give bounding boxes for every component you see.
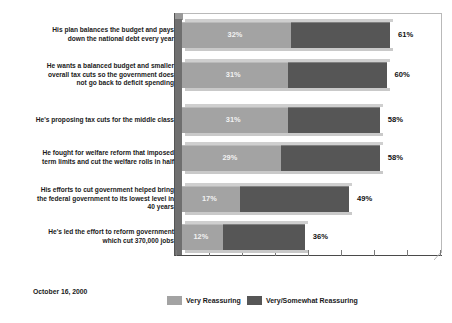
bar-segment-very-somewhat-reassuring bbox=[240, 186, 349, 212]
bar-segment-very-somewhat-reassuring bbox=[223, 224, 305, 250]
bar-category-label: His efforts to cut government helped bri… bbox=[6, 186, 174, 212]
y-axis-line bbox=[174, 13, 175, 256]
plot-depth-wall bbox=[175, 19, 182, 255]
bar-category-label: He fought for welfare reform that impose… bbox=[6, 149, 174, 166]
x-axis-tick bbox=[308, 250, 309, 256]
bar-category-label-line: He's led the effort to reform government bbox=[6, 228, 174, 237]
bar-base-shadow bbox=[185, 48, 393, 51]
bar-category-label-line: He fought for welfare reform that impose… bbox=[6, 149, 174, 158]
legend-label: Very/Somewhat Reassuring bbox=[266, 297, 358, 304]
bar-base-shadow bbox=[185, 212, 352, 215]
bar-base-shadow bbox=[185, 250, 308, 253]
bar-total-value-label: 61% bbox=[398, 22, 413, 48]
bar-segment-very-somewhat-reassuring bbox=[291, 22, 390, 48]
bar-category-label-line: the federal government to its lowest lev… bbox=[6, 195, 174, 204]
bar-category-label: He's proposing tax cuts for the middle c… bbox=[6, 116, 174, 125]
plot-frame-top bbox=[182, 13, 442, 14]
bar-base-shadow bbox=[185, 133, 383, 136]
bar-base-shadow bbox=[185, 171, 383, 174]
x-axis-tick bbox=[341, 250, 342, 256]
bar-total-value-label: 49% bbox=[357, 186, 372, 212]
stacked-bar bbox=[182, 145, 380, 171]
bar-category-label-line: His efforts to cut government helped bri… bbox=[6, 186, 174, 195]
x-axis-tick bbox=[407, 250, 408, 256]
plot-frame-right bbox=[441, 13, 442, 253]
bar-category-label-line: down the national debt every year bbox=[6, 35, 174, 44]
bar-segment-very-somewhat-reassuring bbox=[281, 145, 380, 171]
footer-date: October 16, 2000 bbox=[33, 288, 87, 295]
bar-category-label-line: not go back to deficit spending bbox=[6, 79, 174, 88]
bar-inner-value-label: 31% bbox=[226, 107, 241, 133]
bar-inner-value-label: 29% bbox=[222, 145, 237, 171]
bar-total-value-label: 60% bbox=[395, 62, 410, 88]
legend-swatch-icon bbox=[167, 296, 182, 305]
chart-title bbox=[0, 0, 452, 4]
bar-segment-very-somewhat-reassuring bbox=[288, 107, 380, 133]
chart-container: His plan balances the budget and paysdow… bbox=[0, 0, 452, 323]
bar-category-label-line: His plan balances the budget and pays bbox=[6, 26, 174, 35]
stacked-bar bbox=[182, 107, 380, 133]
bar-category-label-line: which cut 370,000 jobs bbox=[6, 237, 174, 246]
chart-legend: Very Reassuring Very/Somewhat Reassuring bbox=[167, 296, 358, 305]
bar-base-shadow bbox=[185, 88, 390, 91]
bar-total-value-label: 36% bbox=[313, 224, 328, 250]
x-axis-tick bbox=[440, 250, 441, 256]
bar-category-label-line: He wants a balanced budget and smaller bbox=[6, 62, 174, 71]
bar-inner-value-label: 31% bbox=[226, 62, 241, 88]
bar-total-value-label: 58% bbox=[388, 107, 403, 133]
bar-inner-value-label: 12% bbox=[193, 224, 208, 250]
x-axis-tick bbox=[176, 250, 177, 256]
bar-category-label-line: He's proposing tax cuts for the middle c… bbox=[6, 116, 174, 125]
bar-total-value-label: 58% bbox=[388, 145, 403, 171]
x-axis-tick bbox=[374, 250, 375, 256]
stacked-bar bbox=[182, 22, 390, 48]
bar-category-label-line: term limits and cut the welfare rolls in… bbox=[6, 158, 174, 167]
legend-item-very-somewhat-reassuring: Very/Somewhat Reassuring bbox=[247, 296, 358, 305]
bar-category-label: He's led the effort to reform government… bbox=[6, 228, 174, 245]
bar-segment-very-somewhat-reassuring bbox=[288, 62, 387, 88]
legend-swatch-icon bbox=[247, 296, 262, 305]
legend-label: Very Reassuring bbox=[186, 297, 241, 304]
bar-category-label: He wants a balanced budget and smallerov… bbox=[6, 62, 174, 88]
legend-item-very-reassuring: Very Reassuring bbox=[167, 296, 241, 305]
bar-category-label-line: 40 years bbox=[6, 203, 174, 212]
bar-inner-value-label: 17% bbox=[202, 186, 217, 212]
bar-category-label-line: overall tax cuts so the government does bbox=[6, 71, 174, 80]
bar-inner-value-label: 32% bbox=[228, 22, 243, 48]
bar-category-label: His plan balances the budget and paysdow… bbox=[6, 26, 174, 43]
stacked-bar bbox=[182, 62, 387, 88]
